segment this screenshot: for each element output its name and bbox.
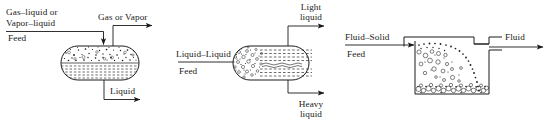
fluid-solid-feed-label-line2: Feed [347,49,365,60]
diagram-canvas [0,0,554,123]
settled-solids-bed [416,83,489,93]
heavy-liquid-outlet-label-line2: liquid [291,109,331,120]
heavy-liquid-outlet-label-line1: Heavy [291,99,331,110]
gas-liquid-feed-label-line1: Gas–liquid or [6,7,58,18]
fluid-outlet-label: Fluid [505,32,525,43]
tank-top-rim [404,37,502,44]
heavy-liquid-outlet-arrow [288,80,324,93]
liquid-liquid-feed-label-line1: Liquid–Liquid [176,49,231,60]
liquid-outlet-label: Liquid [110,86,135,97]
fluid-solid-separator-unit [345,37,543,94]
light-liquid-outlet-label-line1: Light [293,2,329,13]
liquid-liquid-feed-label-line2: Feed [179,66,197,77]
gas-liquid-feed-label-line3: Feed [8,33,26,44]
separator-diagram-figure: Gas–liquid or Vapor–liquid Feed Gas or V… [0,0,554,123]
gas-liquid-feed-label-line2: Vapor–liquid [6,18,55,29]
solid-particle-trajectory [418,43,480,92]
fluid-solid-feed-label-line1: Fluid–Solid [345,32,390,43]
light-liquid-outlet-label-line2: liquid [293,12,329,23]
liquid-liquid-separator-unit [178,26,324,93]
light-liquid-outlet-arrow [288,26,324,46]
gas-or-vapor-outlet-label: Gas or Vapor [98,12,148,23]
gas-or-vapor-outlet-arrow [113,26,152,47]
